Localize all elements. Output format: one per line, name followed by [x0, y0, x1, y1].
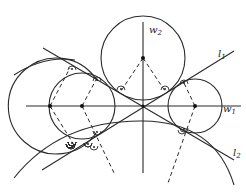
- radius-left-large-up: [50, 68, 70, 106]
- radius-left-down: [82, 106, 115, 175]
- center-right: [193, 104, 197, 108]
- intersection-point: [141, 104, 144, 107]
- right-angle-dot: [96, 79, 98, 81]
- center-left: [80, 104, 84, 108]
- center-top: [141, 56, 145, 60]
- label-l1: l1: [218, 48, 226, 61]
- radius-left-up: [82, 78, 97, 106]
- label-w2: w2: [149, 24, 163, 37]
- right-angle-dot: [164, 88, 166, 90]
- label-w1: w1: [223, 103, 236, 116]
- right-angle-dot: [93, 146, 95, 148]
- right-angle-dot: [71, 142, 73, 144]
- radius-right-down: [168, 106, 195, 183]
- center-left-large: [48, 104, 52, 108]
- right-angle-dot: [87, 143, 89, 145]
- right-angle-dot: [96, 131, 98, 133]
- radius-right-up: [184, 83, 195, 106]
- right-angle-dot: [183, 128, 185, 130]
- radius-top-left: [121, 58, 143, 91]
- radius-left-large-down: [50, 106, 74, 145]
- radius-top-right: [143, 58, 165, 91]
- right-angle-dot: [183, 82, 185, 84]
- right-angle-dot: [120, 88, 122, 90]
- right-angle-dot: [71, 68, 73, 70]
- label-l2: l2: [233, 147, 241, 160]
- bisector-diagram: w2 w1 l1 l2: [0, 0, 246, 194]
